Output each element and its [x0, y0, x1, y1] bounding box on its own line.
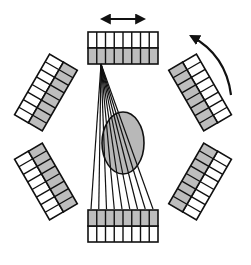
detector-block-upper-left: [15, 54, 78, 131]
detector-ring-diagram: [0, 0, 251, 265]
detector-block-top: [88, 32, 158, 64]
detector-block-lower-left: [15, 143, 78, 220]
diagram-canvas: [0, 0, 251, 265]
detector-block-lower-right: [169, 143, 232, 220]
detector-block-bottom: [88, 210, 158, 242]
